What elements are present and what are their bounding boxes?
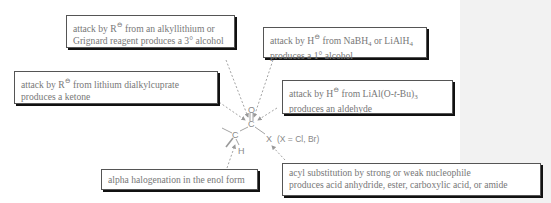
box-cuprate: attack by R⊖ from lithium dialkylcuprate… [14,71,218,104]
hydrogen-atom: H [238,146,245,156]
text: or LiAlH [372,35,410,46]
box-line-1: attack by H⊖ from NaBH4 or LiAlH4 [270,31,420,50]
box-acyl-substitution: acyl substitution by strong or weak nucl… [282,163,541,196]
box-line-2: produces a ketone [21,91,211,103]
subscript: 3 [414,93,418,101]
arrow-nabh4 [254,60,273,117]
box-line-2: Grignard reagent produces a 3° alcohol [73,35,228,47]
box-line-1: acyl substitution by strong or weak nucl… [289,167,534,179]
text: from LiAl(O- [339,88,394,99]
oxygen-atom: O [248,105,255,115]
box-line-1: attack by R⊖ from an alkyllithium or [73,19,228,35]
arrow-cuprate [216,100,245,120]
arrow-acyl-substitution [272,146,285,160]
box-line-1: alpha halogenation in the enol form [108,174,251,186]
box-line-2: produces an aldehyde [289,103,446,115]
box-alkyllithium: attack by R⊖ from an alkyllithium or Gri… [66,15,235,48]
alpha-carbon-atom: C [232,130,239,140]
text: attack by R [73,23,117,34]
text: from lithium dialkylcuprate [71,79,179,90]
text: from an alkyllithium or [123,23,215,34]
arrow-alkyllithium [226,60,248,117]
box-line-1: attack by H⊖ from LiAl(O-t-Bu)3 [289,84,446,103]
text: attack by H [270,35,314,46]
box-line-1: attack by R⊖ from lithium dialkylcuprate [21,75,211,91]
box-lialotbu: attack by H⊖ from LiAl(O-t-Bu)3 produces… [282,80,453,114]
box-alpha-halogenation: alpha halogenation in the enol form [101,169,258,190]
box-line-2: produces acid anhydride, ester, carboxyl… [289,179,534,191]
text: attack by H [289,88,333,99]
halogen-note: (X = Cl, Br) [277,134,319,144]
arrow-lialotbu [258,108,277,120]
halogen-atom: X [266,134,272,144]
bonds [222,113,265,147]
box-nabh4: attack by H⊖ from NaBH4 or LiAlH4 produc… [263,27,427,58]
text: -Bu) [397,88,415,99]
text: from NaBH [320,35,368,46]
subscript: 4 [409,40,413,48]
arrow-alpha-halogenation [227,145,235,168]
box-line-2: produces a 1° alcohol [270,50,420,62]
text: attack by R [21,79,65,90]
carbonyl-carbon-atom: C [248,119,255,129]
